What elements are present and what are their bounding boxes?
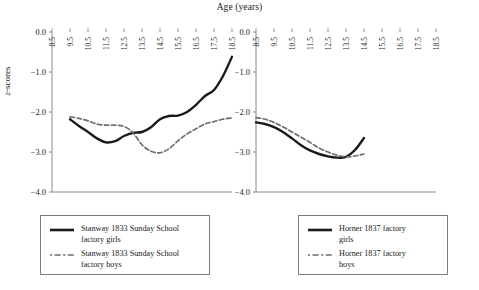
y-tick-label: −1.0 bbox=[235, 68, 250, 77]
x-tick-label: 18.5 bbox=[432, 37, 441, 50]
y-tick-label: −2.0 bbox=[31, 108, 46, 117]
x-tick-label: 12.5 bbox=[324, 37, 333, 50]
legend-line-dashed-icon bbox=[49, 249, 75, 261]
legend-left: Stanway 1833 Sunday School factory girls… bbox=[40, 215, 210, 275]
x-tick-label: 8.5 bbox=[252, 37, 261, 47]
plot-area-left: 0.0−1.0−2.0−3.0−4.08.59.510.511.512.513.… bbox=[0, 0, 240, 205]
x-tick-label: 16.5 bbox=[192, 37, 201, 50]
y-tick-label: −3.0 bbox=[235, 148, 250, 157]
y-tick-label: −4.0 bbox=[235, 188, 250, 197]
legend-label: Horner 1837 factory boys bbox=[339, 249, 406, 270]
legend-line-solid-icon bbox=[49, 224, 75, 236]
y-tick-label: −4.0 bbox=[31, 188, 46, 197]
x-tick-label: 15.5 bbox=[174, 37, 183, 50]
x-tick-label: 13.5 bbox=[342, 37, 351, 50]
legend-entry: Stanway 1833 Sunday School factory boys bbox=[49, 249, 179, 270]
x-tick-label: 15.5 bbox=[378, 37, 387, 50]
x-tick-label: 17.5 bbox=[414, 37, 423, 50]
legend-entry: Stanway 1833 Sunday School factory girls bbox=[49, 224, 179, 245]
series-line bbox=[256, 122, 364, 157]
x-tick-label: 10.5 bbox=[84, 37, 93, 50]
chart-panel-right: 0.0−1.0−2.0−3.0−4.08.59.510.511.512.513.… bbox=[226, 0, 476, 205]
legend-label: Horner 1837 factory girls bbox=[339, 224, 406, 245]
x-tick-label: 9.5 bbox=[66, 37, 75, 47]
chart-panel-left: 0.0−1.0−2.0−3.0−4.08.59.510.511.512.513.… bbox=[0, 0, 240, 205]
legend-entry: Horner 1837 factory girls bbox=[307, 224, 406, 245]
legend-entry: Horner 1837 factory boys bbox=[307, 249, 406, 270]
legend-line-dashed-icon bbox=[307, 249, 333, 261]
x-tick-label: 9.5 bbox=[270, 37, 279, 47]
legend-line-solid-icon bbox=[307, 224, 333, 236]
x-tick-label: 11.5 bbox=[306, 37, 315, 50]
y-tick-label: 0.0 bbox=[240, 28, 250, 37]
figure-container: Age (years) z-scores 0.0−1.0−2.0−3.0−4.0… bbox=[0, 0, 479, 290]
y-tick-label: −2.0 bbox=[235, 108, 250, 117]
y-tick-label: −1.0 bbox=[31, 68, 46, 77]
y-tick-label: −3.0 bbox=[31, 148, 46, 157]
legend-label: Stanway 1833 Sunday School factory boys bbox=[81, 249, 179, 270]
legend-label: Stanway 1833 Sunday School factory girls bbox=[81, 224, 179, 245]
legend-right: Horner 1837 factory girls Horner 1837 fa… bbox=[298, 215, 448, 275]
y-tick-label: 0.0 bbox=[36, 28, 46, 37]
x-tick-label: 11.5 bbox=[102, 37, 111, 50]
x-tick-label: 12.5 bbox=[120, 37, 129, 50]
series-line bbox=[70, 117, 232, 153]
x-tick-label: 17.5 bbox=[210, 37, 219, 50]
x-tick-label: 8.5 bbox=[48, 37, 57, 47]
x-tick-label: 14.5 bbox=[360, 37, 369, 50]
plot-area-right: 0.0−1.0−2.0−3.0−4.08.59.510.511.512.513.… bbox=[226, 0, 476, 205]
x-tick-label: 10.5 bbox=[288, 37, 297, 50]
x-tick-label: 13.5 bbox=[138, 37, 147, 50]
x-tick-label: 16.5 bbox=[396, 37, 405, 50]
x-tick-label: 14.5 bbox=[156, 37, 165, 50]
series-line bbox=[70, 57, 232, 143]
